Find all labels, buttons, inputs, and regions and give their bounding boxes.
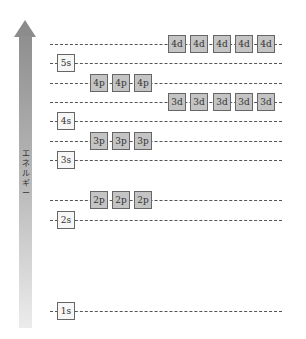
orbital-box-4d: 4d [190, 35, 208, 53]
orbital-box-4s: 4s [57, 112, 75, 130]
orbital-box-4d: 4d [257, 35, 275, 53]
orbital-box-3p: 3p [90, 132, 108, 150]
energy-level-2p [50, 200, 282, 201]
orbital-box-4d: 4d [213, 35, 231, 53]
orbital-box-5s: 5s [57, 54, 75, 72]
orbital-box-3s: 3s [57, 151, 75, 169]
orbital-box-2p: 2p [112, 191, 130, 209]
energy-level-5s [50, 63, 282, 64]
orbital-box-3d: 3d [235, 93, 253, 111]
orbital-box-3d: 3d [213, 93, 231, 111]
orbital-box-4p: 4p [112, 74, 130, 92]
orbital-box-3d: 3d [257, 93, 275, 111]
arrow-up-icon [14, 20, 36, 37]
orbital-box-2p: 2p [90, 191, 108, 209]
energy-level-1s [50, 311, 282, 312]
energy-axis-label: エネルギー [19, 149, 32, 199]
orbital-box-3d: 3d [190, 93, 208, 111]
orbital-box-3p: 3p [112, 132, 130, 150]
orbital-box-4d: 4d [235, 35, 253, 53]
energy-level-4p [50, 83, 282, 84]
orbital-box-4p: 4p [134, 74, 152, 92]
orbital-box-2s: 2s [57, 211, 75, 229]
energy-level-4s [50, 121, 282, 122]
orbital-box-3p: 3p [134, 132, 152, 150]
energy-level-3s [50, 160, 282, 161]
energy-level-3p [50, 141, 282, 142]
orbital-box-2p: 2p [134, 191, 152, 209]
energy-level-2s [50, 220, 282, 221]
orbital-box-4p: 4p [90, 74, 108, 92]
orbital-box-3d: 3d [168, 93, 186, 111]
orbital-box-1s: 1s [57, 302, 75, 320]
orbital-box-4d: 4d [168, 35, 186, 53]
